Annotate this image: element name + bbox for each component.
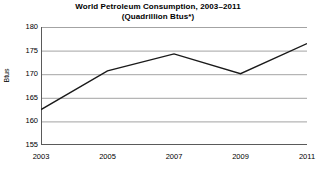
chart-title-block: World Petroleum Consumption, 2003–2011 (… (0, 2, 316, 22)
chart-plot-svg (41, 27, 307, 145)
plot-area (41, 27, 307, 145)
chart-subtitle: (Quadrillion Btus*) (0, 12, 316, 22)
series-line-world-petroleum-consumption (41, 44, 307, 110)
y-tick-label: 175 (14, 47, 38, 55)
x-tick-label: 2009 (221, 152, 261, 161)
y-tick-label: 155 (14, 141, 38, 149)
x-tick-label: 2011 (287, 152, 316, 161)
y-tick-label: 165 (14, 94, 38, 102)
y-tick-label: 180 (14, 23, 38, 31)
chart-title: World Petroleum Consumption, 2003–2011 (0, 2, 316, 12)
chart-figure: World Petroleum Consumption, 2003–2011 (… (0, 0, 316, 176)
x-tick-label: 2005 (88, 152, 128, 161)
y-axis-title: Btus (3, 56, 10, 96)
x-axis-tick-labels: 20032005200720092011 (41, 152, 307, 164)
x-tick-label: 2003 (21, 152, 61, 161)
y-axis-tick-labels: 155160165170175180 (10, 0, 38, 176)
x-tick-label: 2007 (154, 152, 194, 161)
y-tick-label: 170 (14, 70, 38, 78)
y-tick-label: 160 (14, 117, 38, 125)
data-series-line (41, 44, 307, 110)
